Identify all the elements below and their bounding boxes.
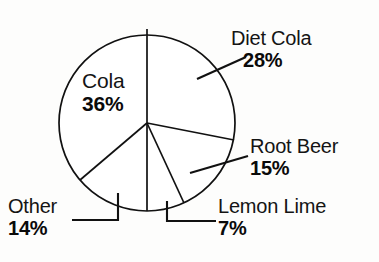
slice-label-diet-cola: Diet Cola 28%	[231, 28, 311, 70]
slice-label-root-beer: Root Beer 15%	[250, 136, 338, 178]
slice-label-root-beer-name: Root Beer	[250, 136, 338, 156]
slice-label-other-name: Other	[8, 196, 57, 216]
slice-label-cola-percent: 36%	[82, 93, 124, 114]
slice-label-cola-name: Cola	[82, 70, 124, 91]
slice-label-root-beer-percent: 15%	[250, 158, 338, 178]
slice-label-diet-cola-name: Diet Cola	[231, 28, 311, 48]
slice-label-lemon-lime: Lemon Lime 7%	[218, 196, 326, 238]
slice-label-lemon-lime-percent: 7%	[218, 218, 326, 238]
slice-label-cola: Cola 36%	[82, 70, 124, 114]
pie-chart: Cola 36% Diet Cola 28% Root Beer 15% Lem…	[0, 0, 379, 262]
slice-label-other: Other 14%	[8, 196, 57, 238]
slice-label-lemon-lime-name: Lemon Lime	[218, 196, 326, 216]
slice-label-diet-cola-percent: 28%	[243, 50, 311, 70]
slice-label-other-percent: 14%	[8, 218, 57, 238]
